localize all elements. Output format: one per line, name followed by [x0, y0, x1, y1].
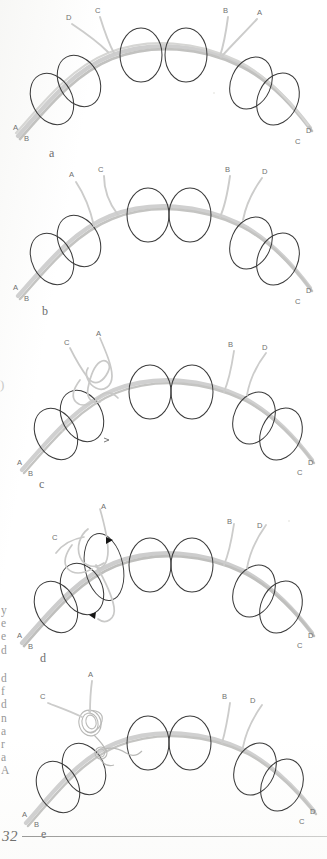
figure-panel-b: A C B D A B D C b	[0, 160, 327, 320]
margin-char: e	[1, 630, 7, 643]
panel-caption-d: d	[40, 651, 46, 666]
label-top-right-inner: B	[223, 6, 228, 15]
free-strands-a	[72, 17, 257, 57]
scan-artifact: )	[0, 378, 5, 391]
label-bottom-left-lower: B	[24, 134, 29, 143]
margin-char: A	[1, 764, 10, 777]
page-number: 32	[2, 828, 18, 845]
label-top-left-inner: C	[98, 165, 104, 174]
label-top-left-inner: A	[88, 670, 94, 679]
label-top-left-outer: A	[69, 170, 75, 179]
margin-char: e	[1, 617, 7, 630]
margin-char: d	[1, 672, 10, 685]
panel-d-labels: C A B D A B D C	[17, 502, 314, 651]
label-bottom-left-lower: B	[34, 820, 39, 829]
label-top-right-inner: B	[228, 340, 233, 349]
figure-panel-d: C A B D A B D C d	[0, 495, 327, 663]
margin-bleed-text-lower: d f d n a r a A	[1, 672, 10, 778]
margin-char: r	[1, 738, 10, 751]
label-top-left-inner: A	[101, 502, 107, 511]
paper-speck	[61, 430, 63, 432]
label-bottom-right-lower: C	[297, 468, 303, 477]
margin-char: d	[1, 698, 10, 711]
label-top-right-outer: D	[257, 521, 263, 530]
margin-char: f	[1, 685, 10, 698]
figure-panel-e: C A B D A B D C e	[0, 665, 327, 835]
margin-char: a	[1, 725, 10, 738]
label-bottom-left-upper: A	[22, 810, 28, 819]
label-top-left-inner: C	[95, 6, 101, 15]
label-top-left-outer: C	[52, 533, 58, 542]
label-bottom-right-upper: D	[308, 458, 314, 467]
label-bottom-right-upper: D	[306, 126, 312, 135]
label-top-left-inner: A	[96, 329, 102, 338]
label-bottom-left-lower: B	[28, 469, 33, 478]
panel-caption-e: e	[41, 827, 47, 842]
label-top-right-inner: B	[225, 165, 230, 174]
label-bottom-left-upper: A	[17, 458, 23, 467]
label-top-right-outer: D	[250, 696, 256, 705]
panel-c-labels: C A B D A B D C	[17, 329, 314, 478]
label-top-left-outer: C	[64, 338, 70, 347]
figure-panel-a: D C B A A B D C a	[0, 0, 327, 160]
label-bottom-right-upper: D	[310, 807, 316, 816]
margin-bleed-text-upper: y e e d	[1, 604, 7, 657]
label-top-right-inner: B	[227, 517, 232, 526]
scanned-page: D C B A A B D C a	[0, 0, 327, 859]
paper-speck	[213, 92, 215, 94]
label-bottom-left-lower: B	[28, 642, 33, 651]
label-top-left-outer: D	[66, 13, 72, 22]
label-bottom-right-lower: C	[297, 641, 303, 650]
label-bottom-right-lower: C	[299, 817, 305, 826]
figure-panel-c: C A B D A B D C c	[0, 322, 327, 490]
margin-char: a	[1, 751, 10, 764]
panel-caption-a: a	[49, 146, 55, 161]
paper-speck	[288, 520, 290, 522]
label-top-left-outer: C	[40, 692, 46, 701]
label-top-right-outer: D	[262, 167, 268, 176]
label-bottom-right-lower: C	[295, 297, 301, 306]
label-top-right-outer: D	[262, 343, 268, 352]
label-top-right-outer: A	[257, 8, 263, 17]
panel-caption-c: c	[39, 477, 45, 492]
label-bottom-right-upper: D	[306, 286, 312, 295]
panel-caption-b: b	[42, 304, 48, 319]
label-bottom-left-upper: A	[17, 631, 23, 640]
free-strands-d	[224, 524, 266, 568]
pointer-mark-c	[104, 438, 109, 442]
margin-char: d	[1, 644, 7, 657]
margin-char: n	[1, 712, 10, 725]
arrowhead-lower-icon	[89, 612, 96, 619]
label-bottom-left-lower: B	[24, 294, 29, 303]
free-strands-c	[224, 351, 266, 395]
margin-char: y	[1, 604, 7, 617]
label-bottom-right-lower: C	[295, 137, 301, 146]
label-bottom-right-upper: D	[308, 631, 314, 640]
footer-rule	[22, 836, 327, 837]
label-top-right-inner: B	[222, 692, 227, 701]
label-bottom-left-upper: A	[13, 283, 19, 292]
